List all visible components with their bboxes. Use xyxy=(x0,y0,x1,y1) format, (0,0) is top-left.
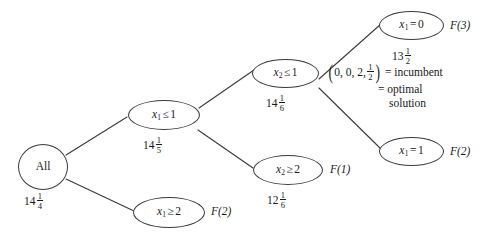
node-x1-le-1-value: 14 1 5 xyxy=(143,136,162,155)
branch-and-bound-diagram: All 14 1 4 x1≤1 14 1 5 x1≥2 F(2) x2≤1 14 xyxy=(0,0,490,242)
node-root-value-int: 14 xyxy=(24,196,36,208)
node-x2-ge-2-label: x2≥2 xyxy=(276,164,300,177)
node-x1-ge-2[interactable]: x1≥2 xyxy=(133,197,205,228)
edge-x1le1-to-x2le1 xyxy=(199,70,254,108)
node-x1-eq-1-fathom-label: F(2) xyxy=(450,146,470,158)
incumbent-tuple-fraction: 1 2 xyxy=(367,63,373,82)
node-x2-le-1-fraction: 1 6 xyxy=(279,94,285,113)
node-x1-eq-0-label: x1=0 xyxy=(399,19,423,32)
node-x1-ge-2-label: x1≥2 xyxy=(157,206,181,219)
node-x2-le-1-value: 14 1 6 xyxy=(266,94,285,113)
incumbent-tuple: ( 0, 0, 2, 1 2 ) xyxy=(327,63,381,82)
node-x2-ge-2[interactable]: x2≥2 xyxy=(253,155,323,185)
node-x2-le-1-label: x2≤1 xyxy=(273,67,297,80)
node-x1-ge-2-fathom-label: F(2) xyxy=(211,206,231,218)
node-x2-ge-2-value: 12 1 6 xyxy=(267,191,286,210)
incumbent-annotation: ( 0, 0, 2, 1 2 ) = incumbent = optimal s… xyxy=(327,63,443,110)
node-x2-le-1[interactable]: x2≤1 xyxy=(252,59,319,88)
edge-root-to-x1le1 xyxy=(66,117,127,155)
edge-x1le1-to-x2ge2 xyxy=(198,130,253,168)
node-x1-eq-0[interactable]: x1=0 xyxy=(379,11,444,40)
node-x2-ge-2-fathom-label: F(1) xyxy=(330,164,350,176)
incumbent-tuple-values: 0, 0, 2, xyxy=(334,65,366,79)
node-root-value: 14 1 4 xyxy=(24,192,43,211)
node-x1-le-1[interactable]: x1≤1 xyxy=(128,100,200,130)
edge-root-to-x1ge2 xyxy=(66,179,134,211)
node-root[interactable]: All xyxy=(18,144,68,190)
node-x1-eq-0-fathom-label: F(3) xyxy=(450,20,470,32)
solution-text: solution xyxy=(327,96,443,110)
node-root-value-fraction: 1 4 xyxy=(37,192,43,211)
node-x1-le-1-label: x1≤1 xyxy=(152,109,176,122)
node-x1-le-1-fraction: 1 5 xyxy=(156,136,162,155)
node-x1-eq-1[interactable]: x1=1 xyxy=(379,137,444,166)
incumbent-text: = incumbent xyxy=(381,65,443,79)
node-root-label: All xyxy=(36,161,51,173)
incumbent-solution-row: ( 0, 0, 2, 1 2 ) = incumbent xyxy=(327,63,443,82)
node-x1-eq-1-label: x1=1 xyxy=(399,145,423,158)
node-x2-ge-2-fraction: 1 6 xyxy=(280,191,286,210)
optimal-text: = optimal xyxy=(327,82,443,96)
